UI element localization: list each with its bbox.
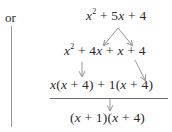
diagonal-arrow-right-icon — [135, 60, 145, 80]
arrows-layer — [0, 0, 172, 132]
split-arrow-right-icon — [118, 28, 132, 45]
split-arrow-left-icon — [104, 28, 118, 45]
